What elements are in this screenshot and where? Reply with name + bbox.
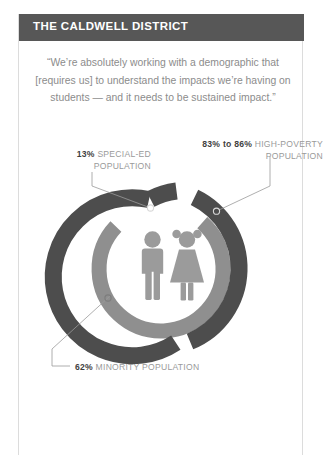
arc-special-ed-population: [151, 191, 177, 199]
label-high-poverty-text: HIGH-POVERTY POPULATION: [252, 139, 323, 161]
card-header-bar: THE CALDWELL DISTRICT: [19, 14, 304, 41]
leader-line-high-poverty: [213, 156, 270, 214]
pull-quote: “We’re absolutely working with a demogra…: [32, 54, 294, 107]
label-special-ed-text: SPECIAL-ED POPULATION: [94, 149, 151, 171]
girl-icon: [170, 230, 204, 301]
page-title: THE CALDWELL DISTRICT: [33, 20, 188, 32]
label-minority: 62% MINORITY POPULATION: [75, 361, 295, 373]
label-special-ed: 13% SPECIAL-ED POPULATION: [29, 148, 151, 172]
infographic-card: THE CALDWELL DISTRICT “We’re absolutely …: [18, 14, 303, 455]
donut-chart: 13% SPECIAL-ED POPULATION 83% to 86% HIG…: [19, 124, 304, 394]
label-minority-value: 62%: [75, 362, 93, 372]
arc-minority-population: [99, 223, 223, 331]
label-minority-text: MINORITY POPULATION: [93, 362, 199, 372]
label-special-ed-value: 13%: [77, 149, 95, 159]
label-high-poverty: 83% to 86% HIGH-POVERTY POPULATION: [171, 138, 323, 162]
boy-icon: [142, 231, 163, 300]
label-high-poverty-value: 83% to 86%: [202, 139, 252, 149]
